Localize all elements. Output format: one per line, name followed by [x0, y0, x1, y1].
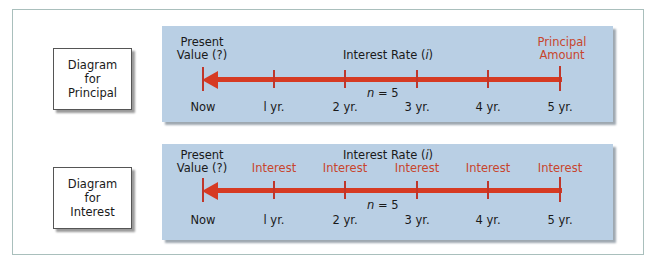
tick-2 — [344, 181, 346, 199]
period-label: 3 yr. — [404, 101, 429, 114]
interest-flow-label: Interest — [395, 162, 439, 175]
timeline-panel-principal: Present Value (?) Interest Rate (i) Prin… — [162, 26, 613, 122]
principal-amount-label: Principal Amount — [537, 36, 586, 62]
diagram-label-principal: Diagram for Principal — [53, 48, 132, 110]
tick-now — [202, 67, 204, 91]
n-periods-label: n = 5 — [367, 199, 399, 212]
interest-rate-label: Interest Rate (i) — [343, 49, 433, 62]
period-label: 5 yr. — [547, 214, 572, 227]
period-label: Now — [190, 101, 215, 114]
tick-4 — [487, 70, 489, 88]
label-line: for — [68, 191, 117, 205]
present-value-label: Present Value (?) — [177, 36, 227, 62]
tick-3 — [416, 181, 418, 199]
interest-flow-label: Interest — [538, 162, 582, 175]
period-label: 4 yr. — [475, 214, 500, 227]
period-label: 2 yr. — [332, 101, 357, 114]
period-label: Now — [190, 214, 215, 227]
period-label: l yr. — [264, 101, 285, 114]
timeline-panel-interest: Present Value (?) Interest Rate (i) Inte… — [162, 144, 613, 240]
period-label: 3 yr. — [404, 214, 429, 227]
label-line: Principal — [68, 86, 117, 100]
tick-now — [202, 178, 204, 202]
period-label: 2 yr. — [332, 214, 357, 227]
tick-2 — [344, 70, 346, 88]
period-label: 5 yr. — [547, 101, 572, 114]
arrowhead-left-icon — [202, 71, 218, 89]
period-label: 4 yr. — [475, 101, 500, 114]
label-line: for — [68, 72, 117, 86]
interest-flow-label: Interest — [466, 162, 510, 175]
tick-1 — [273, 70, 275, 88]
period-label: l yr. — [264, 214, 285, 227]
label-line: Diagram — [68, 177, 117, 191]
tick-5 — [559, 177, 561, 202]
diagram-label-interest: Diagram for Interest — [53, 167, 132, 229]
present-value-label: Present Value (?) — [177, 149, 227, 175]
tick-3 — [416, 70, 418, 88]
label-line: Interest — [68, 205, 117, 219]
arrowhead-left-icon — [202, 182, 218, 200]
tick-1 — [273, 181, 275, 199]
tick-5 — [559, 66, 561, 91]
n-periods-label: n = 5 — [367, 87, 399, 100]
tick-4 — [487, 181, 489, 199]
label-line: Diagram — [68, 58, 117, 72]
interest-flow-label: Interest — [323, 162, 367, 175]
interest-flow-label: Interest — [252, 162, 296, 175]
timeline-arrow — [212, 188, 562, 193]
timeline-arrow — [212, 77, 562, 82]
